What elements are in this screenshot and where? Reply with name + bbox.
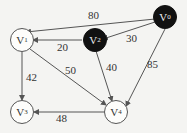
- edge-label-v4-v3: 48: [56, 113, 67, 124]
- node-v0: V0: [153, 5, 177, 29]
- node-v1: V1: [10, 28, 34, 52]
- node-v1-subscript: 1: [24, 36, 28, 44]
- edge-label-v2-v1: 20: [57, 42, 68, 53]
- edge-label-v0-v4: 85: [147, 59, 158, 70]
- node-v0-subscript: 0: [167, 13, 171, 21]
- node-v2-label: V: [89, 34, 97, 46]
- edge-v1-v4: [30, 49, 106, 105]
- edge-label-v2-v4: 40: [106, 62, 117, 73]
- node-v4: V4: [104, 100, 128, 124]
- edge-label-v0-v2: 30: [126, 33, 137, 44]
- node-v1-label: V: [16, 34, 24, 46]
- node-v2-subscript: 2: [97, 36, 101, 44]
- edge-label-v0-v1: 80: [88, 10, 99, 21]
- node-v3-label: V: [16, 106, 24, 118]
- node-v4-subscript: 4: [118, 108, 122, 116]
- edge-label-v1-v4: 50: [65, 65, 76, 76]
- node-v2: V2: [83, 28, 107, 52]
- edge-v2-v4: [96, 51, 112, 101]
- edge-label-v1-v3: 42: [26, 72, 37, 83]
- node-v3: V3: [10, 100, 34, 124]
- node-v4-label: V: [110, 106, 118, 118]
- node-v0-label: V: [159, 11, 167, 23]
- graph-diagram: 80 30 85 20 40 42 50 48 V0 V1 V2 V3 V4: [0, 0, 187, 133]
- node-v3-subscript: 3: [24, 108, 28, 116]
